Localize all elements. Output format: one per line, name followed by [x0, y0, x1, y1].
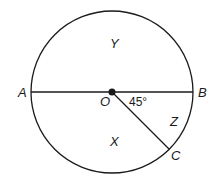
- label-c: C: [171, 148, 181, 163]
- region-label-z: Z: [169, 114, 179, 129]
- angle-label: 45°: [129, 95, 147, 109]
- circle-diagram: A B C O Y X Z 45°: [0, 0, 217, 183]
- label-a: A: [17, 85, 27, 100]
- region-label-y: Y: [110, 36, 120, 51]
- label-o: O: [100, 94, 110, 109]
- region-label-x: X: [109, 134, 120, 149]
- label-b: B: [198, 85, 207, 100]
